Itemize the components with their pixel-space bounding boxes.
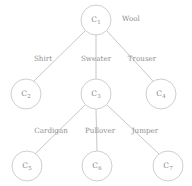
node-subscript-c2: 2 — [27, 93, 31, 99]
node-subscript-c6: 6 — [98, 165, 102, 171]
edge-label-shirt: Shirt — [34, 54, 52, 63]
node-label-c7: C7 — [163, 161, 173, 171]
node-letter-c5: C — [22, 161, 28, 170]
edge-label-jumper: Jumper — [132, 126, 159, 135]
tree-diagram: C1 C2 C3 C4 C5 C6 C7 Wool Shirt Sweater … — [0, 0, 192, 186]
node-label-c2: C2 — [21, 89, 31, 99]
node-letter-c7: C — [163, 161, 169, 170]
node-subscript-c5: 5 — [28, 165, 32, 171]
node-letter-c6: C — [92, 161, 98, 170]
node-subscript-c1: 1 — [97, 19, 101, 25]
node-subscript-c7: 7 — [169, 165, 173, 171]
edge-label-sweater: Sweater — [81, 54, 111, 63]
edge-label-pullover: Pullover — [85, 126, 115, 135]
root-node-tag-wool: Wool — [122, 14, 140, 23]
edge-label-trouser: Trouser — [128, 54, 157, 63]
node-subscript-c4: 4 — [162, 93, 166, 99]
node-label-c6: C6 — [92, 161, 102, 171]
node-letter-c2: C — [21, 89, 27, 98]
node-label-c4: C4 — [156, 89, 166, 99]
node-subscript-c3: 3 — [97, 93, 101, 99]
node-label-c5: C5 — [22, 161, 32, 171]
node-label-c3: C3 — [91, 89, 101, 99]
node-letter-c1: C — [91, 15, 97, 24]
node-letter-c4: C — [156, 89, 162, 98]
node-letter-c3: C — [91, 89, 97, 98]
node-label-c1: C1 — [91, 15, 101, 25]
edge-label-cardigan: Cardigan — [34, 126, 68, 135]
